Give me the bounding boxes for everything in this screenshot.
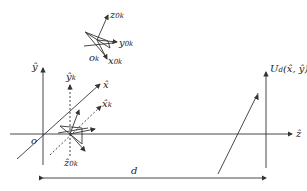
object-origin-label: ok — [89, 53, 99, 63]
coordinate-frames-diagram: ŷ x̂ ẑ o z0k y0k x0k ok ŷk x̂k ẑ0k Ud(x̂… — [0, 0, 307, 191]
plane-label: Ud(x̂, ŷ) — [270, 64, 307, 74]
object-z-label: z0k — [110, 10, 124, 20]
diagram-lines — [0, 0, 307, 191]
global-x-label: x̂ — [103, 80, 109, 90]
global-x-axis — [17, 84, 100, 159]
local-object-icon — [58, 110, 95, 151]
local-y-label: ŷk — [66, 72, 76, 82]
global-z-label: ẑ — [296, 129, 301, 139]
global-origin-label: o — [31, 136, 37, 146]
local-x-label: x̂k — [102, 99, 112, 109]
object-x-label: x0k — [108, 56, 122, 66]
object-y-label: y0k — [119, 38, 133, 48]
distance-label: d — [131, 166, 137, 176]
global-y-label: ŷ — [32, 62, 38, 72]
plane-diagonal-axis — [218, 93, 258, 174]
local-z-label: ẑ0k — [64, 158, 78, 168]
